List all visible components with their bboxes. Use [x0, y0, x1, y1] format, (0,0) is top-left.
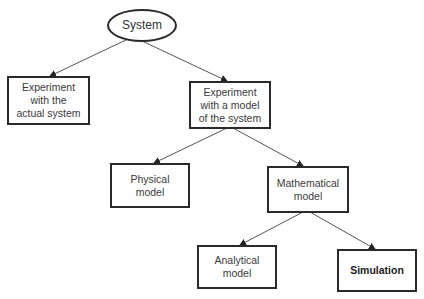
node-simulation-label: Simulation — [350, 264, 404, 277]
node-experiment-model-label: Experiment with a model of the system — [199, 86, 261, 125]
node-experiment-actual-label: Experiment with the actual system — [16, 81, 80, 120]
node-system: System — [107, 9, 177, 42]
edge-root-model — [142, 41, 227, 81]
edge-root-actual — [50, 39, 128, 76]
node-physical-model: Physical model — [110, 163, 190, 208]
node-analytical-model: Analytical model — [197, 245, 277, 289]
node-mathematical-model: Mathematical model — [267, 166, 349, 213]
edge-model-physical — [154, 128, 227, 163]
node-experiment-actual-system: Experiment with the actual system — [7, 76, 90, 125]
node-simulation: Simulation — [337, 249, 417, 292]
node-mathematical-model-label: Mathematical model — [277, 177, 339, 203]
edge-mathematical-simulation — [310, 212, 375, 249]
node-experiment-model: Experiment with a model of the system — [189, 81, 271, 129]
edge-mathematical-analytical — [240, 212, 303, 245]
node-system-label: System — [122, 19, 162, 32]
node-analytical-model-label: Analytical model — [215, 254, 260, 280]
node-physical-model-label: Physical model — [130, 173, 169, 199]
edge-model-mathematical — [233, 128, 303, 166]
